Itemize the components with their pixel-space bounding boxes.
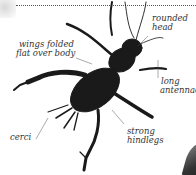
label-strong-hindlegs: strong hindlegs (127, 127, 164, 145)
label-rounded-head: rounded head (152, 14, 188, 32)
label-line: flat over body (16, 49, 75, 58)
label-line: antennae (160, 86, 196, 95)
label-long-antennae: long antennae (160, 77, 196, 95)
label-cerci: cerci (10, 133, 31, 142)
label-line: cerci (10, 133, 31, 142)
cricket-diagram: rounded head wings folded flat over body… (0, 0, 196, 175)
label-line: hindlegs (127, 136, 164, 145)
label-wings: wings folded flat over body (16, 40, 75, 58)
label-line: head (152, 23, 188, 32)
